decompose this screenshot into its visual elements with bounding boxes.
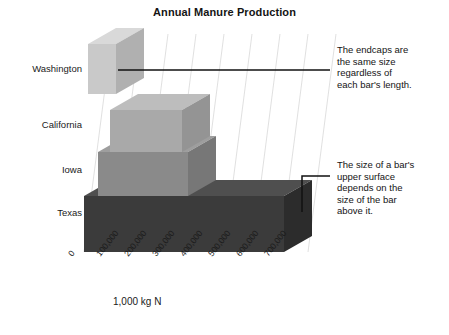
category-label-texas: Texas (6, 208, 82, 218)
category-label-california: California (6, 120, 82, 130)
category-label-washington: Washington (6, 64, 82, 74)
x-axis-title: 1,000 kg N (113, 296, 161, 307)
bar-washington-front (88, 44, 116, 94)
bar-iowa-front (98, 152, 188, 196)
annotation-upper-surface-note: The size of a bar's upper surface depend… (337, 159, 449, 217)
bar-california (110, 94, 210, 152)
bar-washington (88, 28, 144, 94)
annotation-endcap-note: The endcaps are the same size regardless… (337, 44, 447, 90)
category-label-iowa: Iowa (6, 165, 82, 175)
bar-california-front (110, 110, 182, 152)
chart-figure: Annual Manure Production (0, 0, 449, 335)
